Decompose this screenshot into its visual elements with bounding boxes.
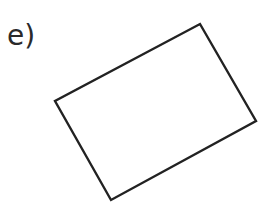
- rectangle-diagram: [0, 0, 276, 205]
- rotated-rectangle: [55, 24, 256, 200]
